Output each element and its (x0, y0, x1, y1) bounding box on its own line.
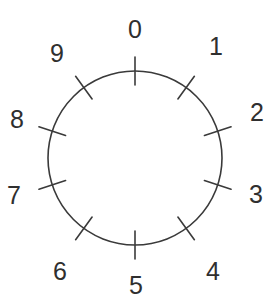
dial-label-1: 1 (203, 34, 229, 59)
dial-label-8: 8 (4, 107, 30, 132)
dial-circle (48, 71, 222, 245)
dial-tick-7 (39, 181, 66, 190)
dial-label-9: 9 (44, 41, 70, 66)
dial-tick-1 (178, 76, 194, 99)
dial-tick-4 (178, 217, 194, 240)
dial-tick-2 (204, 127, 231, 136)
dial-label-5: 5 (123, 273, 149, 298)
dial-label-2: 2 (244, 100, 270, 125)
dial-label-3: 3 (243, 182, 269, 207)
dial-label-0: 0 (122, 17, 148, 42)
dial-tick-3 (204, 181, 231, 190)
dial-tick-group (39, 57, 231, 259)
numbered-dial-figure: 0123456789 (0, 0, 272, 301)
dial-graphic (0, 0, 272, 301)
dial-tick-9 (76, 76, 92, 99)
dial-label-6: 6 (47, 259, 73, 284)
dial-tick-8 (39, 127, 66, 136)
dial-label-4: 4 (200, 259, 226, 284)
dial-label-7: 7 (1, 183, 27, 208)
dial-tick-6 (76, 217, 92, 240)
